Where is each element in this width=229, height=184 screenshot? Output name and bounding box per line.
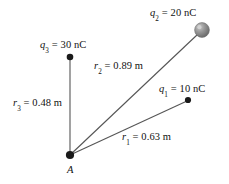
charge-q1-label: q1 = 10 nC — [159, 84, 205, 95]
distance-r3-value: = 0.48 m — [21, 97, 62, 108]
charge-q3-subscript: 3 — [45, 47, 49, 55]
charge-q3-label: q3 = 30 nC — [40, 40, 86, 51]
charge-q2-value: = 20 nC — [159, 7, 196, 18]
distance-r1-value: = 0.63 m — [130, 131, 171, 142]
distance-r1-label: r1 = 0.63 m — [122, 132, 171, 143]
distance-r2-label: r2 = 0.89 m — [94, 61, 143, 72]
physics-figure: q2 = 20 nC q3 = 30 nC q1 = 10 nC r2 = 0.… — [0, 0, 229, 184]
point-a-dot — [66, 151, 74, 159]
distance-r1-subscript: 1 — [126, 139, 130, 147]
distance-r2-value: = 0.89 m — [102, 60, 143, 71]
charge-q2-subscript: 2 — [155, 15, 159, 23]
point-a-label: A — [67, 165, 73, 176]
charge-q3-value: = 30 nC — [49, 39, 86, 50]
distance-r2-subscript: 2 — [98, 68, 102, 76]
distance-r3-label: r3 = 0.48 m — [13, 98, 62, 109]
charge-q2-sphere — [195, 23, 210, 38]
charge-q2-sphere-highlight — [197, 25, 201, 29]
distance-r3-subscript: 3 — [17, 105, 21, 113]
charge-q1-dot — [185, 97, 191, 103]
charge-q3-dot — [67, 54, 74, 61]
charge-q1-value: = 10 nC — [168, 83, 205, 94]
charge-q1-subscript: 1 — [164, 91, 168, 99]
charge-q2-label: q2 = 20 nC — [150, 8, 196, 19]
